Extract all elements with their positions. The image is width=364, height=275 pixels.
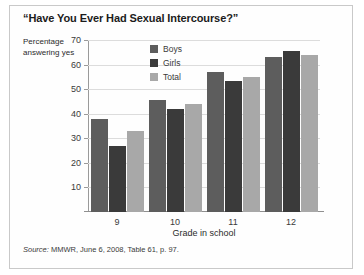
bar-total-grade-11	[243, 77, 260, 212]
legend-swatch-icon-boys	[150, 45, 158, 53]
plot-canvas: 10203040506070 9101112	[88, 40, 320, 212]
x-axis-label: Grade in school	[88, 228, 320, 238]
y-axis-tick-label: 50	[71, 84, 81, 94]
y-axis-tick-label: 40	[71, 109, 81, 119]
bar-boys-grade-9	[91, 119, 108, 212]
legend-swatch-icon-girls	[150, 59, 158, 67]
x-axis-tick-label: 9	[114, 217, 119, 227]
bar-boys-grade-11	[207, 72, 224, 212]
legend-label-total: Total	[163, 72, 181, 82]
bar-boys-grade-12	[265, 57, 282, 212]
legend-label-girls: Girls	[163, 58, 180, 68]
bar-girls-grade-10	[167, 109, 184, 212]
source-text: MMWR, June 6, 2008, Table 61, p. 97.	[51, 245, 179, 254]
y-axis-tick-label: 30	[71, 133, 81, 143]
bar-group	[265, 40, 318, 212]
x-axis-tick-label: 10	[170, 217, 180, 227]
bar-series-group	[88, 40, 320, 212]
y-axis-tick-label: 70	[71, 35, 81, 45]
bar-group	[91, 40, 144, 212]
legend-swatch-icon-total	[150, 73, 158, 81]
bar-girls-grade-11	[225, 81, 242, 212]
plot-area: 10203040506070 9101112	[88, 40, 320, 212]
legend-item-total: Total	[150, 71, 182, 83]
chart-title: “Have You Ever Had Sexual Intercourse?”	[23, 12, 238, 24]
bar-total-grade-10	[185, 104, 202, 212]
bar-total-grade-12	[301, 55, 318, 212]
x-axis-tick-label: 11	[228, 217, 237, 227]
bar-boys-grade-10	[149, 100, 166, 212]
legend-label-boys: Boys	[163, 44, 182, 54]
source-note: Source: MMWR, June 6, 2008, Table 61, p.…	[23, 245, 179, 254]
bar-total-grade-9	[127, 131, 144, 212]
y-axis-tick-label: 10	[71, 182, 81, 192]
y-axis-tick-label: 60	[71, 60, 81, 70]
bar-group	[207, 40, 260, 212]
legend-item-girls: Girls	[150, 57, 182, 69]
chart-legend: Boys Girls Total	[150, 43, 182, 85]
bar-girls-grade-9	[109, 146, 126, 212]
figure-container: “Have You Ever Had Sexual Intercourse?” …	[0, 0, 364, 275]
legend-item-boys: Boys	[150, 43, 182, 55]
x-axis-tick-label: 12	[286, 217, 296, 227]
bar-girls-grade-12	[283, 51, 300, 212]
source-word: Source:	[23, 245, 49, 254]
y-axis-tick-label: 20	[71, 158, 81, 168]
